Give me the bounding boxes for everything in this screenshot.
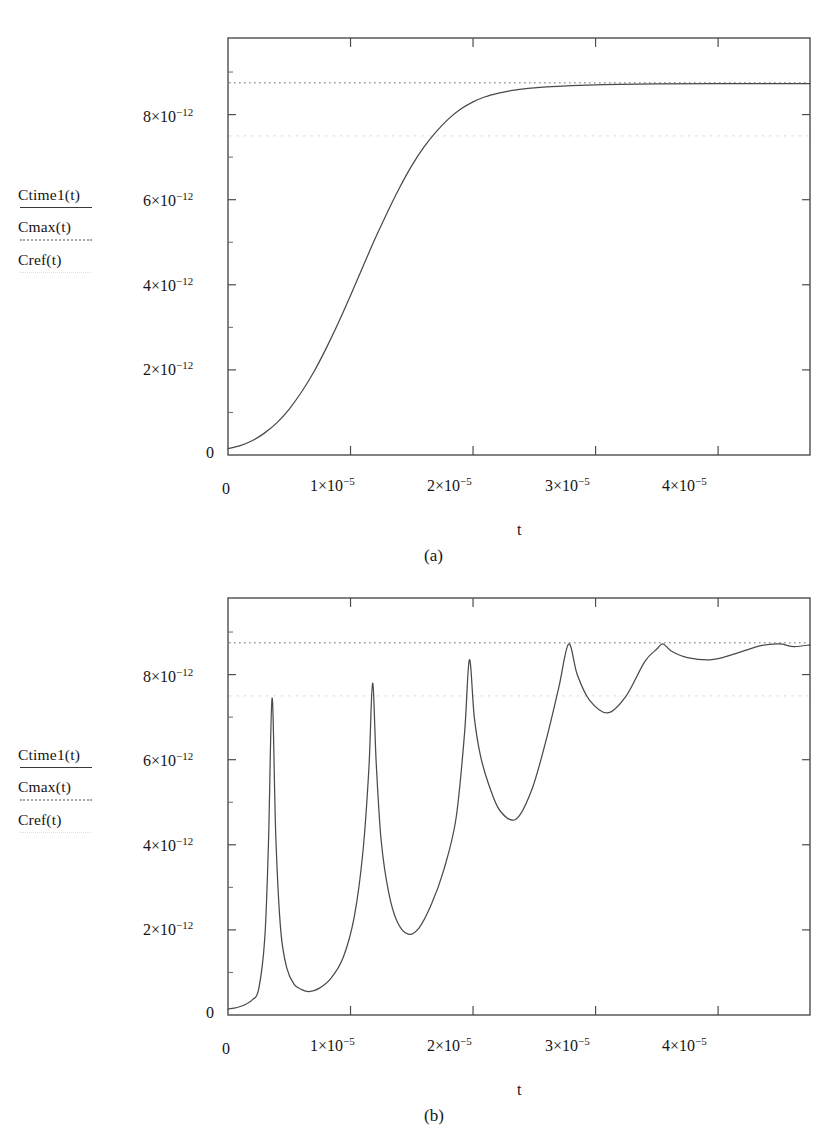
figure-panel-b: Ctime1(t) Cmax(t) Cref(t) 8×10−12 6×10−1… — [0, 568, 830, 1136]
figure-panel-a: Ctime1(t) Cmax(t) Cref(t) 8×10−12 6×10−1… — [0, 0, 830, 568]
ctime1-curve — [228, 83, 810, 448]
plot-svg-a — [0, 0, 830, 568]
plot-area-b — [0, 568, 830, 1136]
plot-area-a — [0, 0, 830, 568]
plot-svg-b — [0, 568, 830, 1136]
plot-frame — [228, 598, 810, 1015]
plot-frame — [228, 38, 810, 455]
ctime1-curve — [228, 644, 810, 1009]
